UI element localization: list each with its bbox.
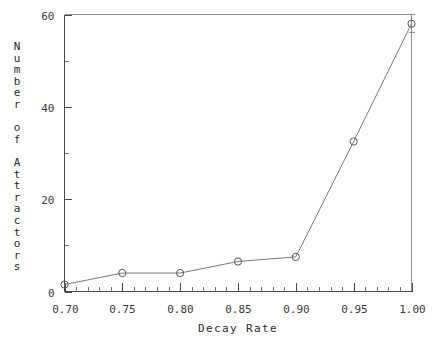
error-bars-group <box>409 15 415 33</box>
y-axis-title-char: s <box>14 260 21 273</box>
x-axis: 0.700.750.800.850.900.951.00 <box>52 283 426 316</box>
x-tick-label: 0.75 <box>109 303 136 316</box>
x-tick-label: 0.70 <box>52 303 79 316</box>
x-tick-label: 0.85 <box>225 303 252 316</box>
y-axis-title-char: f <box>14 133 21 146</box>
x-axis-tick-labels: 0.700.750.800.850.900.951.00 <box>52 303 426 316</box>
x-tick-label: 1.00 <box>399 303 426 316</box>
y-axis-title-char: r <box>14 98 21 111</box>
y-axis-ticks <box>65 16 72 293</box>
data-point-markers <box>61 20 415 288</box>
y-axis-title: NumberofAttractors <box>14 40 21 273</box>
x-axis-title: Decay Rate <box>198 322 278 335</box>
y-tick-label: 0 <box>48 287 55 300</box>
plot-frame <box>65 15 412 292</box>
x-axis-ticks <box>66 283 413 292</box>
x-tick-label: 0.80 <box>167 303 194 316</box>
data-series-group <box>61 15 415 289</box>
x-tick-label: 0.90 <box>283 303 310 316</box>
y-axis: 0204060 <box>41 10 71 300</box>
chart-container: 0204060 0.700.750.800.850.900.951.00 Dec… <box>0 0 433 343</box>
y-axis-tick-labels: 0204060 <box>41 10 54 300</box>
y-tick-label: 40 <box>41 102 54 115</box>
y-tick-label: 60 <box>41 10 54 23</box>
series-line-number-of-attractors <box>65 24 412 285</box>
y-tick-label: 20 <box>41 194 54 207</box>
x-tick-label: 0.95 <box>341 303 368 316</box>
line-chart-plot: 0204060 0.700.750.800.850.900.951.00 Dec… <box>0 0 433 343</box>
